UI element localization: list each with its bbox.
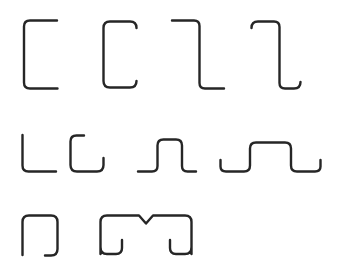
shape-double-u-notched: [101, 216, 192, 255]
shape-group-row-1: [24, 21, 301, 89]
shape-group-row-3: [23, 216, 192, 256]
section-profile-drawing: [0, 0, 339, 273]
shape-lipped-zed: [252, 22, 301, 89]
shape-group-row-2: [23, 135, 321, 172]
shape-lipped-channel: [104, 22, 137, 88]
shape-lipped-hat: [221, 143, 321, 172]
shape-lipped-u-channel: [23, 216, 58, 256]
profile-sheet: [0, 0, 339, 273]
shape-plain-angle: [23, 135, 57, 172]
shape-plain-hat: [138, 140, 196, 172]
shape-plain-zed: [172, 21, 224, 89]
shape-lipped-channel-short: [71, 136, 104, 172]
shape-plain-channel: [24, 21, 58, 89]
